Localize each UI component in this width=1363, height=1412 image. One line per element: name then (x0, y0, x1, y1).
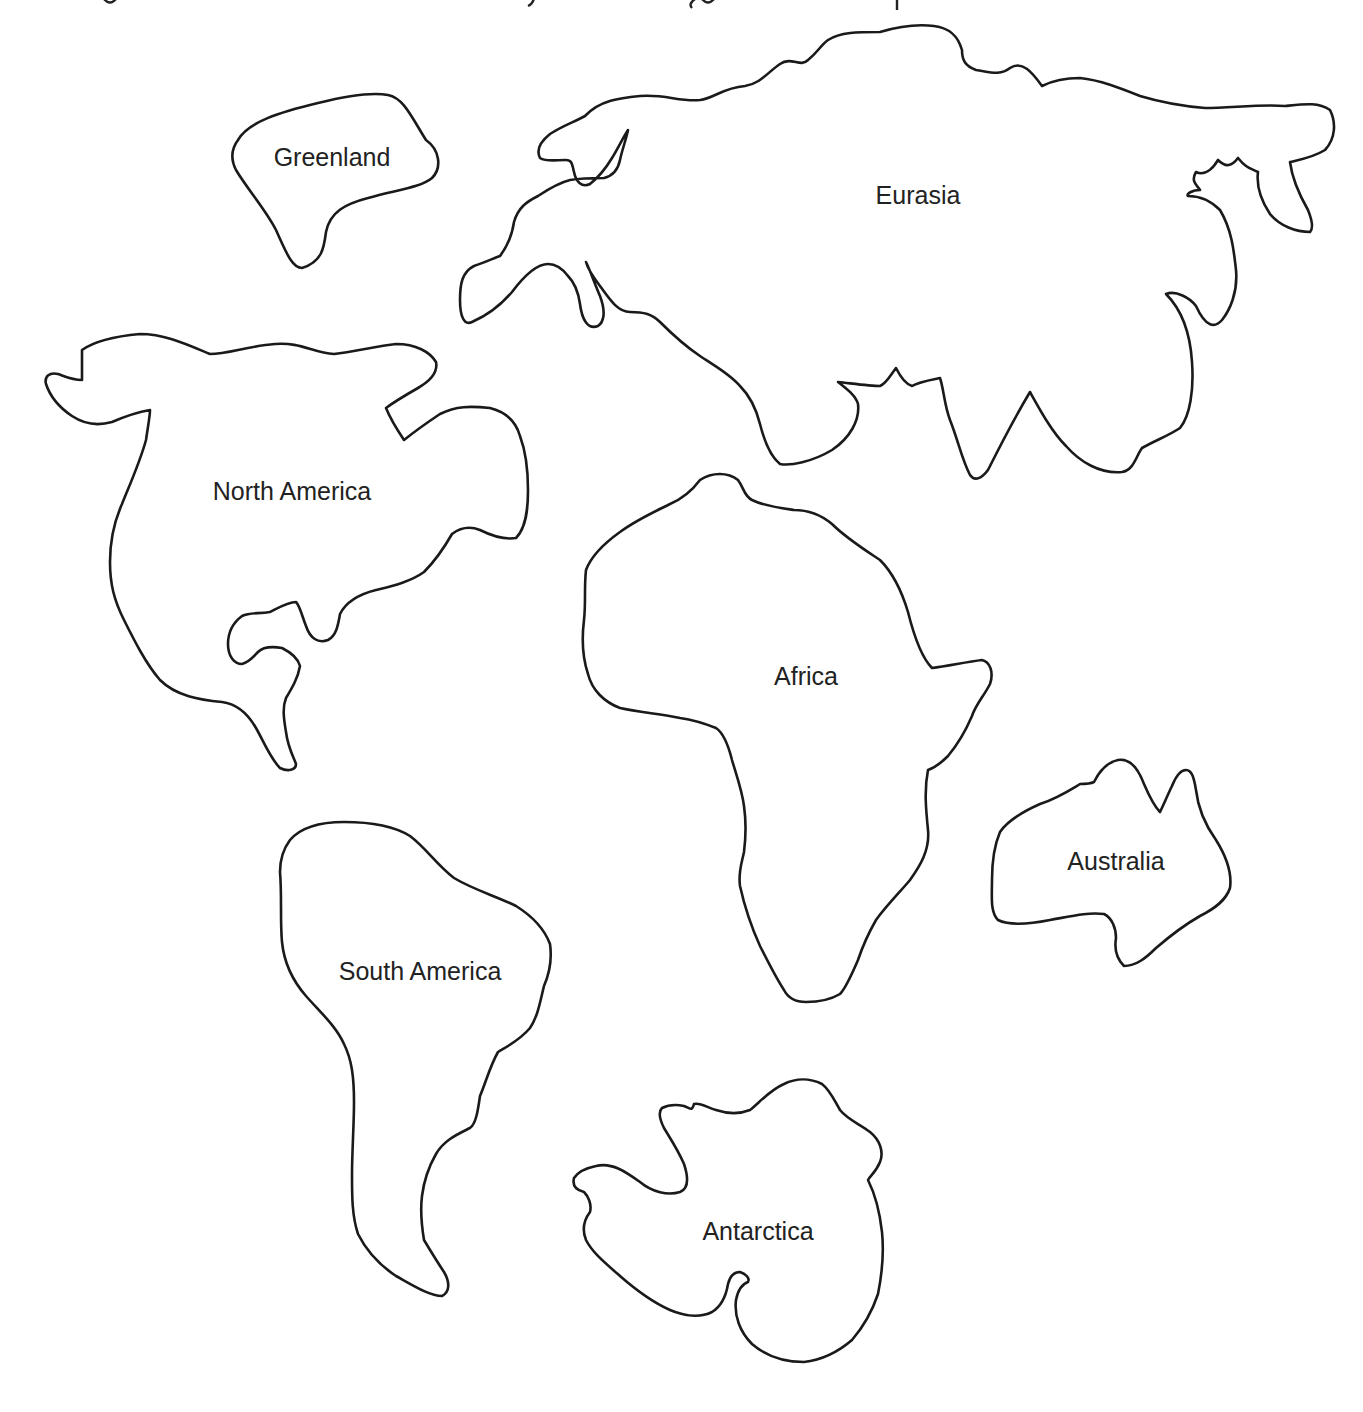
continent-outline-eurasia[interactable] (460, 25, 1334, 478)
label-north-america: North America (213, 479, 371, 504)
continent-outline-africa[interactable] (583, 474, 992, 1002)
continent-outline-greenland[interactable] (232, 94, 438, 268)
label-antarctica: Antarctica (702, 1219, 813, 1244)
continent-outline-south-america[interactable] (280, 822, 551, 1296)
continent-outline-north-america[interactable] (46, 334, 528, 770)
continents-map (0, 0, 1363, 1412)
label-australia: Australia (1067, 849, 1164, 874)
label-africa: Africa (774, 664, 838, 689)
label-eurasia: Eurasia (876, 183, 961, 208)
label-greenland: Greenland (274, 145, 391, 170)
label-south-america: South America (339, 959, 502, 984)
